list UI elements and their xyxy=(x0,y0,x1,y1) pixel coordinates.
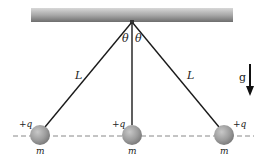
string-right xyxy=(132,22,219,127)
string-left xyxy=(45,22,132,127)
charge-right-label: +q xyxy=(233,120,246,129)
pendulum-diagram xyxy=(0,0,267,164)
ceiling xyxy=(31,8,233,22)
gravity-label: g xyxy=(239,72,246,83)
theta-right-label: θ xyxy=(135,33,142,44)
gravity-arrow-icon xyxy=(246,86,254,96)
ball-left xyxy=(30,125,50,145)
pivot xyxy=(130,20,134,23)
charge-left-label: +q xyxy=(19,120,32,129)
charge-center-label: +q xyxy=(112,120,125,129)
ball-right xyxy=(214,125,234,145)
length-right-label: L xyxy=(187,70,194,81)
theta-left-label: θ xyxy=(122,33,129,44)
mass-right-label: m xyxy=(220,147,229,156)
mass-left-label: m xyxy=(36,147,45,156)
mass-center-label: m xyxy=(128,147,137,156)
length-left-label: L xyxy=(75,70,82,81)
